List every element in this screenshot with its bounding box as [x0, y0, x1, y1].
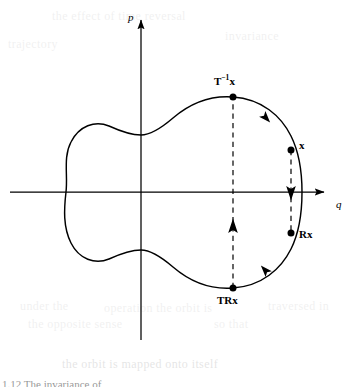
point-dot-t-inverse-x [230, 94, 237, 101]
p-axis-label: p [128, 12, 134, 23]
point-label-t-inverse-x: T−1x [214, 76, 235, 87]
point-dot-rx [288, 230, 295, 237]
caption-fragment: 1.12 The invariance of [2, 378, 134, 387]
diagram-canvas [0, 0, 364, 388]
phase-space-figure: the effect of time reversal invariance t… [0, 0, 364, 388]
point-label-rx: Rx [299, 229, 312, 240]
flow-upper-right-icon [259, 111, 273, 125]
point-label-x: x [299, 140, 305, 151]
point-dot-x [288, 147, 295, 154]
point-dot-trx [230, 285, 237, 292]
point-label-trx: TRx [217, 295, 238, 306]
q-axis-label: q [336, 199, 342, 210]
